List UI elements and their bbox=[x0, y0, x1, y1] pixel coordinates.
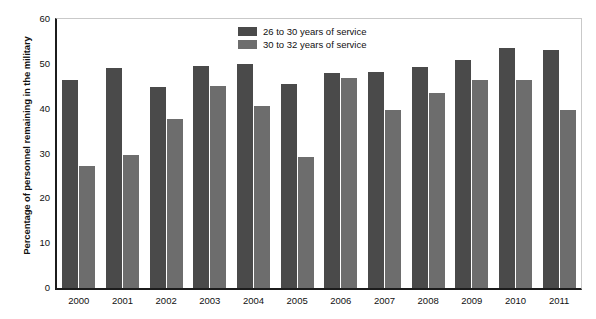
bar-group bbox=[62, 19, 95, 288]
legend-swatch-icon bbox=[238, 40, 257, 49]
legend-item: 30 to 32 years of service bbox=[238, 38, 468, 51]
bar-2006-series2 bbox=[341, 78, 357, 288]
bar-2007-series1 bbox=[368, 72, 384, 288]
bar-group bbox=[193, 19, 226, 288]
bar-2011-series1 bbox=[543, 50, 559, 288]
bar-2003-series2 bbox=[210, 86, 226, 288]
y-axis-tick-label: 60 bbox=[20, 13, 50, 24]
bar-2003-series1 bbox=[193, 66, 209, 288]
legend-label: 30 to 32 years of service bbox=[263, 39, 367, 50]
y-axis-tick-label: 40 bbox=[20, 103, 50, 114]
bar-group bbox=[368, 19, 401, 288]
bar-2005-series2 bbox=[298, 157, 314, 288]
bar-group bbox=[150, 19, 183, 288]
bar-2011-series2 bbox=[560, 110, 576, 288]
bar-2004-series2 bbox=[254, 106, 270, 288]
bar-group bbox=[412, 19, 445, 288]
bar-group bbox=[324, 19, 357, 288]
legend-swatch-icon bbox=[238, 27, 257, 36]
bar-group bbox=[281, 19, 314, 288]
bar-2010-series1 bbox=[499, 48, 515, 288]
bar-2000-series1 bbox=[62, 80, 78, 288]
bar-2008-series2 bbox=[429, 93, 445, 288]
y-axis-tick-label: 30 bbox=[20, 148, 50, 159]
bar-group bbox=[106, 19, 139, 288]
bar-2001-series2 bbox=[123, 155, 139, 288]
bar-group bbox=[543, 19, 576, 288]
bar-chart: Percentage of personnel remaining in the… bbox=[0, 0, 596, 319]
bar-group bbox=[237, 19, 270, 288]
bar-2000-series2 bbox=[79, 166, 95, 288]
bar-group bbox=[455, 19, 488, 288]
bars-layer bbox=[57, 19, 581, 288]
bar-2001-series1 bbox=[106, 68, 122, 288]
y-axis-tick-label: 20 bbox=[20, 192, 50, 203]
chart-legend: 26 to 30 years of service30 to 32 years … bbox=[238, 25, 468, 51]
x-axis-tick-label: 2011 bbox=[529, 295, 589, 306]
y-axis-tick-label: 0 bbox=[20, 282, 50, 293]
bar-2010-series2 bbox=[516, 80, 532, 288]
bar-2002-series1 bbox=[150, 87, 166, 288]
bar-2005-series1 bbox=[281, 84, 297, 288]
bar-2004-series1 bbox=[237, 64, 253, 288]
bar-2006-series1 bbox=[324, 73, 340, 288]
bar-2009-series2 bbox=[472, 80, 488, 288]
bar-2007-series2 bbox=[385, 110, 401, 288]
legend-label: 26 to 30 years of service bbox=[263, 26, 367, 37]
bar-2002-series2 bbox=[167, 119, 183, 288]
legend-item: 26 to 30 years of service bbox=[238, 25, 468, 38]
bar-2009-series1 bbox=[455, 60, 471, 288]
y-axis-tick-label: 10 bbox=[20, 237, 50, 248]
bar-2008-series1 bbox=[412, 67, 428, 288]
bar-group bbox=[499, 19, 532, 288]
y-axis-tick-label: 50 bbox=[20, 58, 50, 69]
